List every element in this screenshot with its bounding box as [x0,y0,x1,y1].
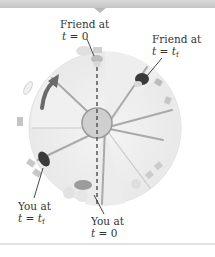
friend-t0-label: Friend at t = 0 [60,18,109,42]
you-t0-label: You at t = 0 [91,215,124,239]
you-tf-label: You at t = tf [18,200,51,228]
bottom-divider [0,243,215,245]
friend-tf-label: Friend at t = tf [152,33,201,61]
